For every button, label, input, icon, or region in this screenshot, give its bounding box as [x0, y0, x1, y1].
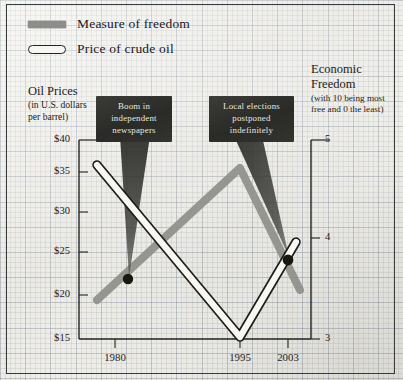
- x-axis-tick-2003: 2003: [268, 351, 308, 363]
- left-axis-tick-35: $35: [36, 165, 70, 176]
- right-axis-tick-5: 5: [325, 133, 345, 144]
- callout-elections: Local elections postponed indefinitely: [209, 96, 294, 142]
- right-axis-tick-3: 3: [325, 332, 345, 343]
- x-axis-tick-1995: 1995: [220, 351, 260, 363]
- chart-page: Measure of freedom Price of crude oil Oi…: [0, 0, 403, 380]
- left-axis-tick-25: $25: [36, 245, 70, 256]
- x-axis-tick-1980: 1980: [95, 351, 135, 363]
- left-axis-tick-15: $15: [36, 332, 70, 343]
- annotation-marker-newspapers: [123, 274, 133, 284]
- x-axis: [79, 339, 311, 348]
- left-axis-tick-40: $40: [36, 133, 70, 144]
- left-axis: [79, 140, 97, 339]
- annotation-marker-elections: [283, 255, 294, 266]
- right-axis-tick-4: 4: [325, 231, 345, 242]
- callout-newspapers: Boom in independent newspapers: [96, 96, 172, 142]
- chart-plot-area: [0, 0, 403, 380]
- callout-tail-elections: [234, 136, 289, 257]
- left-axis-tick-20: $20: [36, 288, 70, 299]
- left-axis-tick-30: $30: [36, 205, 70, 216]
